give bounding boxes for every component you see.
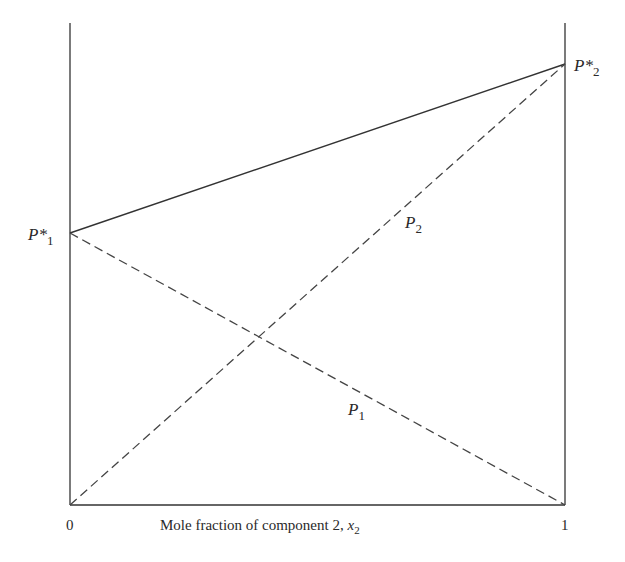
p-star-2-label: P*2	[573, 56, 599, 79]
raoult-law-diagram: P*1 P*2 P2 P1 0 1 Mole fraction of compo…	[0, 0, 625, 562]
p2-partial-pressure-line	[70, 64, 565, 505]
x-tick-0: 0	[66, 517, 74, 533]
p1-partial-pressure-line	[70, 233, 565, 505]
p1-label: P1	[347, 400, 365, 423]
p2-label: P2	[404, 213, 422, 236]
x-tick-1: 1	[561, 517, 569, 533]
p-star-1-label: P*1	[27, 225, 53, 248]
x-axis-title: Mole fraction of component 2, x2	[160, 517, 360, 536]
total-pressure-line	[70, 64, 565, 233]
